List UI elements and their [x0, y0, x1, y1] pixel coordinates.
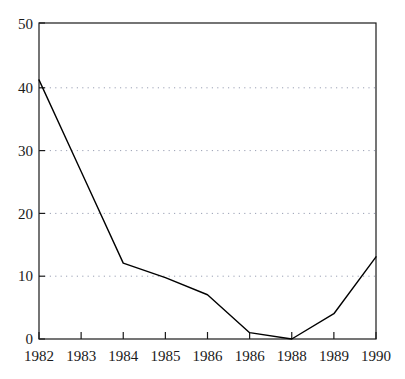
- x-axis-labels: 1982 1983 1984 1985 1986 1986 1988 1989 …: [24, 348, 391, 364]
- chart-canvas: 0 10 20 30 40 50 1982 1983 1984 1985 198…: [0, 0, 405, 379]
- ytick-label-0: 0: [26, 331, 34, 347]
- ytick-label-50: 50: [18, 16, 33, 32]
- line-chart: 0 10 20 30 40 50 1982 1983 1984 1985 198…: [0, 0, 405, 379]
- xtick-label-4: 1986: [193, 348, 224, 364]
- xtick-label-1: 1983: [66, 348, 96, 364]
- xtick-label-2: 1984: [108, 348, 139, 364]
- xtick-label-0: 1982: [24, 348, 54, 364]
- xtick-label-6: 1988: [277, 348, 307, 364]
- xtick-label-5: 1986: [235, 348, 266, 364]
- xtick-label-8: 1990: [361, 348, 391, 364]
- ytick-label-10: 10: [18, 268, 33, 284]
- ytick-label-20: 20: [18, 206, 33, 222]
- xtick-label-7: 1989: [319, 348, 349, 364]
- xtick-label-3: 1985: [150, 348, 180, 364]
- chart-background: [0, 0, 405, 379]
- ytick-label-40: 40: [18, 80, 33, 96]
- ytick-label-30: 30: [18, 143, 33, 159]
